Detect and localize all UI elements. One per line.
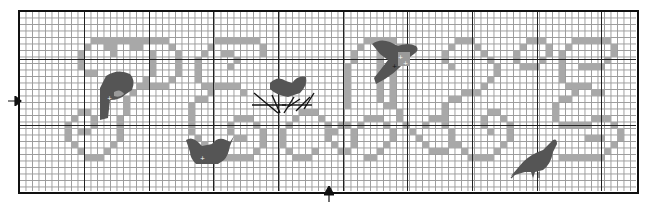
letter-1-stitch: [71, 115, 78, 122]
letter-5-stitch: [461, 89, 468, 96]
letter-1-stitch: [117, 135, 124, 142]
letter-6-stitch: [565, 44, 572, 51]
center-arrow-left-icon: [8, 96, 22, 106]
letter-1-stitch: [162, 83, 169, 90]
letter-3-stitch: [370, 154, 377, 161]
letter-5-stitch: [455, 96, 462, 103]
letter-2-stitch: [260, 135, 267, 142]
letter-3-stitch: [305, 154, 312, 161]
letter-2-stitch: [260, 50, 267, 57]
svg-text:+: +: [107, 94, 112, 101]
letter-6-stitch: [611, 50, 618, 57]
letter-1-stitch: [169, 76, 176, 83]
bird-icon-perched: +: [96, 66, 138, 120]
letter-2-stitch: [260, 128, 267, 135]
bird-icon-flying: + + +: [370, 38, 424, 86]
letter-6-stitch: [617, 135, 624, 142]
letter-5-stitch: [468, 89, 475, 96]
letter-3-stitch: [351, 141, 358, 148]
letter-2-stitch: [227, 63, 234, 70]
letter-5-stitch: [487, 76, 494, 83]
bird-icon-walking: [509, 138, 567, 180]
bird-icon-on-branches: [252, 71, 332, 119]
svg-text:+: +: [200, 154, 205, 161]
letter-3-stitch: [390, 135, 397, 142]
letter-5-stitch: [487, 128, 494, 135]
major-grid-line-vertical: [84, 11, 85, 191]
letter-1-stitch: [71, 141, 78, 148]
letter-1-stitch: [104, 148, 111, 155]
letter-5-stitch: [481, 83, 488, 90]
letter-6-stitch: [585, 154, 592, 161]
major-grid-line-vertical: [601, 11, 602, 191]
letter-2-stitch: [201, 96, 208, 103]
letter-6-stitch: [611, 141, 618, 148]
letter-6-stitch: [604, 148, 611, 155]
letter-3-stitch: [364, 154, 371, 161]
letter-5-stitch: [487, 154, 494, 161]
major-grid-line-vertical: [472, 11, 473, 191]
letter-1-stitch: [110, 141, 117, 148]
bird-icon-sitting: +: [184, 136, 236, 166]
letter-4-stitch: [429, 115, 436, 122]
letter-5-stitch: [500, 141, 507, 148]
letter-6-stitch: [578, 154, 585, 161]
letter-5-stitch: [448, 96, 455, 103]
letter-5-stitch: [546, 50, 553, 57]
letter-1-stitch: [175, 70, 182, 77]
letter-3-stitch: [344, 148, 351, 155]
letter-1-stitch: [156, 83, 163, 90]
svg-text:+: +: [403, 59, 408, 66]
major-grid-line-vertical: [149, 11, 150, 191]
letter-5-stitch: [474, 89, 481, 96]
letter-4-stitch: [357, 44, 364, 51]
letter-1-stitch: [97, 154, 104, 161]
letter-1-stitch: [136, 44, 143, 51]
letter-6-stitch: [591, 154, 598, 161]
letter-2-stitch: [240, 89, 247, 96]
letter-3-stitch: [331, 128, 338, 135]
letter-4-stitch: [344, 102, 351, 109]
letter-2-stitch: [240, 135, 247, 142]
letter-2-stitch: [247, 154, 254, 161]
letter-2-stitch: [260, 141, 267, 148]
letter-5-stitch: [448, 44, 455, 51]
center-arrow-bottom-icon: [324, 186, 334, 202]
svg-text:+: +: [392, 62, 397, 69]
letter-1-stitch: [110, 50, 117, 57]
letter-1-stitch: [65, 128, 72, 135]
letter-5-stitch: [448, 63, 455, 70]
major-grid-line-horizontal: [19, 59, 636, 60]
letter-5-stitch: [494, 70, 501, 77]
letter-3-stitch: [351, 128, 358, 135]
letter-3-stitch: [383, 141, 390, 148]
letter-6-stitch: [572, 89, 579, 96]
letter-5-stitch: [494, 148, 501, 155]
letter-6-stitch: [565, 96, 572, 103]
major-grid-line-horizontal: [19, 125, 636, 126]
letter-2-stitch: [253, 148, 260, 155]
letter-5-stitch: [487, 109, 494, 116]
letter-3-stitch: [351, 135, 358, 142]
letter-4-stitch: [442, 148, 449, 155]
letter-1-stitch: [65, 135, 72, 142]
letter-2-stitch: [240, 115, 247, 122]
letter-2-stitch: [201, 50, 208, 57]
letter-3-stitch: [312, 148, 319, 155]
letter-6-stitch: [572, 154, 579, 161]
letter-5-stitch: [507, 128, 514, 135]
letter-1-stitch: [91, 154, 98, 161]
cross-stitch-grid: + + + + +: [19, 11, 636, 191]
letter-5-stitch: [494, 109, 501, 116]
letter-5-stitch: [500, 115, 507, 122]
letter-4-stitch: [383, 102, 390, 109]
major-grid-line-vertical: [343, 11, 344, 191]
letter-5-stitch: [520, 44, 527, 51]
letter-3-stitch: [377, 148, 384, 155]
letter-2-stitch: [234, 115, 241, 122]
letter-5-stitch: [533, 63, 540, 70]
